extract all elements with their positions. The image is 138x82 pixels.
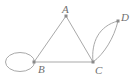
self-loop-edge-b — [6, 53, 35, 72]
edge-c-d-left — [93, 21, 118, 62]
vertex-label-d: D — [120, 11, 129, 23]
vertex-label-a: A — [61, 3, 69, 15]
graph-diagram: A B C D — [0, 0, 138, 82]
edge-a-c — [66, 16, 93, 62]
graph-canvas: A B C D — [0, 0, 138, 82]
vertex-dot-d — [117, 20, 120, 23]
edge-a-b — [34, 16, 66, 62]
vertex-label-b: B — [38, 63, 45, 75]
vertex-label-c: C — [95, 64, 103, 76]
vertex-dot-b — [33, 61, 36, 64]
